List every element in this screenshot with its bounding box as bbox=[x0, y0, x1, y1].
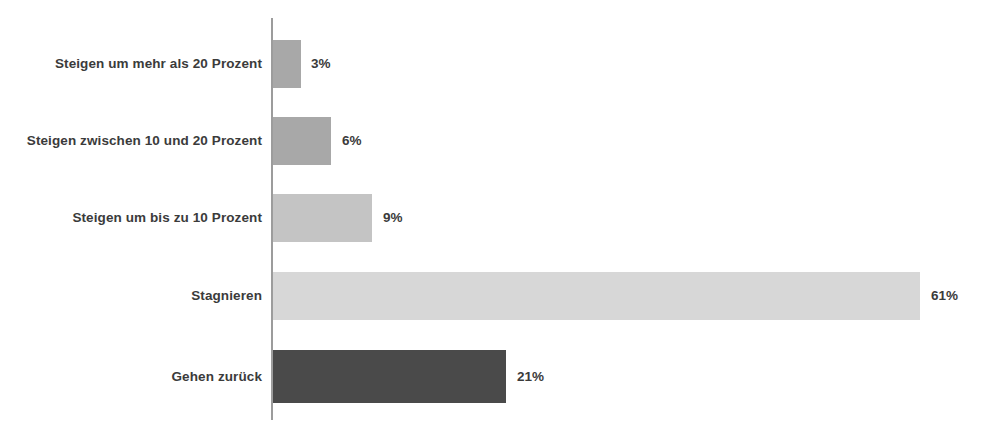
bar-value-label: 3% bbox=[311, 57, 331, 71]
bar-track bbox=[273, 272, 920, 320]
bar-track bbox=[273, 350, 506, 403]
category-label: Gehen zurück bbox=[172, 370, 262, 384]
category-label: Stagnieren bbox=[191, 289, 262, 303]
bar-segment bbox=[273, 194, 372, 242]
bar-row: Steigen zwischen 10 und 20 Prozent 6% bbox=[0, 117, 985, 165]
bar-segment bbox=[273, 117, 331, 165]
bar-track bbox=[273, 40, 301, 88]
bar-row: Stagnieren 61% bbox=[0, 272, 985, 320]
bar-value-label: 9% bbox=[383, 211, 403, 225]
category-label: Steigen zwischen 10 und 20 Prozent bbox=[27, 134, 262, 148]
bar-segment bbox=[273, 350, 506, 403]
bar-row: Steigen um mehr als 20 Prozent 3% bbox=[0, 40, 985, 88]
bar-row: Gehen zurück 21% bbox=[0, 350, 985, 403]
bar-value-label: 61% bbox=[931, 289, 958, 303]
bar-chart: Steigen um mehr als 20 Prozent 3% Steige… bbox=[0, 0, 985, 435]
bar-track bbox=[273, 117, 331, 165]
bar-segment bbox=[273, 40, 301, 88]
bar-value-label: 6% bbox=[342, 134, 362, 148]
bar-row: Steigen um bis zu 10 Prozent 9% bbox=[0, 194, 985, 242]
category-label: Steigen um mehr als 20 Prozent bbox=[55, 57, 262, 71]
category-label: Steigen um bis zu 10 Prozent bbox=[72, 211, 262, 225]
bar-value-label: 21% bbox=[517, 370, 544, 384]
bar-segment bbox=[273, 272, 920, 320]
bar-track bbox=[273, 194, 372, 242]
